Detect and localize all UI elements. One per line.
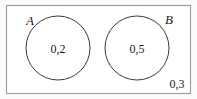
set-a-label: A [25,13,34,28]
universal-set-rectangle [7,6,191,94]
outside-region-value: 0,3 [170,77,185,91]
set-b-value: 0,5 [130,42,145,56]
set-a-value: 0,2 [51,42,66,56]
set-b-label: B [165,12,173,27]
venn-diagram-figure: A B 0,2 0,5 0,3 [0,0,197,99]
